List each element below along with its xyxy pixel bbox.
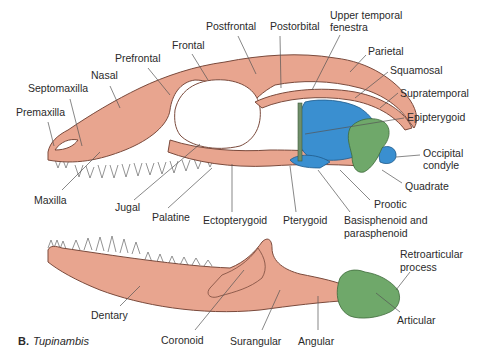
label-prefrontal: Prefrontal [115, 52, 161, 64]
label-occipital-condyle-2: condyle [423, 159, 459, 171]
label-postorbital: Postorbital [270, 20, 320, 32]
orbit [175, 80, 261, 149]
diagram-drawing [0, 0, 481, 357]
label-premaxilla: Premaxilla [16, 106, 65, 118]
label-supratemporal: Supratemporal [400, 87, 469, 99]
label-squamosal: Squamosal [390, 64, 443, 76]
label-occipital-condyle: Occipital [423, 147, 463, 159]
label-retroarticular-process: Retroarticular [400, 248, 463, 260]
label-epipterygoid: Epipterygoid [407, 111, 465, 123]
label-ectopterygoid: Ectopterygoid [203, 214, 267, 226]
label-palatine: Palatine [152, 211, 190, 223]
label-upper-temporal-fenestra-2: fenestra [330, 21, 368, 33]
skull-diagram: Premaxilla Septomaxilla Nasal Prefrontal… [0, 0, 481, 357]
articular [337, 270, 399, 318]
label-articular: Articular [397, 314, 436, 326]
label-septomaxilla: Septomaxilla [28, 82, 88, 94]
label-quadrate: Quadrate [405, 180, 449, 192]
dentary [48, 239, 355, 312]
label-retroarticular-process-2: process [400, 261, 437, 273]
label-pterygoid: Pterygoid [283, 214, 327, 226]
label-maxilla: Maxilla [34, 194, 67, 206]
label-frontal: Frontal [172, 39, 205, 51]
label-nasal: Nasal [91, 69, 118, 81]
label-prootic: Prootic [374, 198, 407, 210]
label-surangular: Surangular [230, 335, 281, 347]
figure-caption: B.Tupinambis [18, 335, 89, 347]
label-parietal: Parietal [368, 45, 404, 57]
label-jugal: Jugal [115, 201, 140, 213]
label-coronoid: Coronoid [161, 334, 204, 346]
label-postfrontal: Postfrontal [206, 20, 256, 32]
label-parasphenoid: parasphenoid [344, 227, 408, 239]
quadrate [348, 119, 389, 173]
label-dentary: Dentary [91, 309, 128, 321]
epipterygoid [298, 103, 302, 161]
label-angular: Angular [298, 335, 334, 347]
label-basisphenoid: Basisphenoid and [344, 214, 427, 226]
panel-letter: B. [18, 335, 29, 347]
label-upper-temporal-fenestra: Upper temporal [330, 9, 402, 21]
species-name: Tupinambis [33, 335, 89, 347]
